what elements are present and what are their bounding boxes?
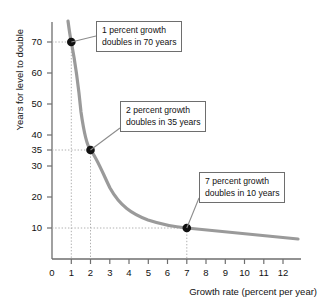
- x-tick-label-4: 4: [126, 268, 131, 278]
- x-tick-label-11: 11: [259, 268, 269, 278]
- y-tick-label-20: 20: [16, 192, 42, 202]
- y-axis-title: Years for level to double: [15, 23, 25, 137]
- annotation-2pct-line1: 2 percent growth: [126, 105, 201, 117]
- annotation-1pct-line1: 1 percent growth: [102, 25, 177, 37]
- x-axis-title: Growth rate (percent per year): [189, 287, 317, 297]
- x-tick-label-1: 1: [69, 268, 74, 278]
- y-tick-label-35: 35: [16, 145, 42, 155]
- x-tick-label-5: 5: [146, 268, 151, 278]
- x-tick-label-7: 7: [184, 268, 189, 278]
- x-tick-label-8: 8: [203, 268, 208, 278]
- leader-line-7pct: [187, 198, 199, 228]
- y-axis-ticks: [47, 42, 52, 228]
- leader-line-2pct: [91, 128, 121, 150]
- x-tick-label-9: 9: [223, 268, 228, 278]
- leader-line-1pct: [71, 36, 96, 42]
- x-tick-label-2: 2: [88, 268, 93, 278]
- chart-figure: 70 60 50 40 35 30 20 10 0 1 2 3 4 5 6 7 …: [0, 0, 323, 308]
- annotation-box-1pct: 1 percent growth doubles in 70 years: [96, 21, 182, 52]
- annotation-7pct-line1: 7 percent growth: [205, 176, 280, 188]
- annotation-7pct-line2: doubles in 10 years: [205, 188, 280, 200]
- annotation-2pct-line2: doubles in 35 years: [126, 117, 201, 129]
- x-tick-label-3: 3: [107, 268, 112, 278]
- x-axis-ticks: [71, 259, 283, 264]
- axis-origin-label: 0: [49, 268, 54, 278]
- x-tick-label-10: 10: [239, 268, 250, 278]
- x-tick-label-12: 12: [278, 268, 289, 278]
- annotation-1pct-line2: doubles in 70 years: [102, 37, 177, 49]
- y-tick-label-30: 30: [16, 161, 42, 171]
- annotation-box-7pct: 7 percent growth doubles in 10 years: [199, 172, 285, 203]
- y-tick-label-10: 10: [16, 223, 42, 233]
- annotation-box-2pct: 2 percent growth doubles in 35 years: [120, 101, 206, 132]
- x-tick-label-6: 6: [165, 268, 170, 278]
